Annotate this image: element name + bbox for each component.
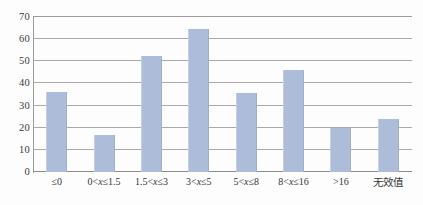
x-axis-category-label: 无效值 xyxy=(373,176,403,188)
y-axis-tick-labels: 706050403020100 xyxy=(0,0,30,205)
x-axis-category-label: 5<x≤8 xyxy=(233,176,259,188)
label-text: 0< xyxy=(88,176,99,187)
bar xyxy=(188,29,209,172)
x-axis-category-label: ≤0 xyxy=(51,176,62,188)
y-axis-tick-label: 0 xyxy=(2,167,30,177)
label-text: >16 xyxy=(333,176,349,187)
bar xyxy=(236,93,257,172)
y-axis-tick-label: 50 xyxy=(2,56,30,66)
bar xyxy=(283,70,304,172)
y-axis-tick-label: 40 xyxy=(2,78,30,88)
y-axis-tick-label: 20 xyxy=(2,123,30,133)
x-axis-category-label: 1.5<x≤3 xyxy=(135,176,168,188)
x-axis-category-label: >16 xyxy=(333,176,349,188)
label-text: ≤8 xyxy=(248,176,259,187)
bar xyxy=(94,135,115,172)
bars-layer xyxy=(33,17,412,172)
label-text: ≤0 xyxy=(51,176,62,187)
label-text: ≤5 xyxy=(201,176,212,187)
label-text: ≤3 xyxy=(157,176,168,187)
label-text: 5< xyxy=(233,176,244,187)
label-text: 无效值 xyxy=(373,176,403,188)
label-text: 8< xyxy=(278,176,289,187)
label-text: ≤16 xyxy=(293,176,309,187)
x-axis-category-label: 3<x≤5 xyxy=(186,176,212,188)
y-axis-tick-label: 10 xyxy=(2,145,30,155)
x-axis-category-label: 0<x≤1.5 xyxy=(88,176,121,188)
label-text: ≤1.5 xyxy=(103,176,121,187)
plot-area xyxy=(33,17,412,172)
x-axis-category-labels: ≤00<x≤1.51.5<x≤33<x≤55<x≤88<x≤16>16无效值 xyxy=(33,176,412,200)
label-text: 3< xyxy=(186,176,197,187)
y-axis-tick-label: 30 xyxy=(2,101,30,111)
bar xyxy=(378,119,399,172)
label-text: 1.5< xyxy=(135,176,153,187)
x-axis-category-label: 8<x≤16 xyxy=(278,176,309,188)
bar-chart: 706050403020100 ≤00<x≤1.51.5<x≤33<x≤55<x… xyxy=(0,0,423,205)
bar xyxy=(141,56,162,172)
y-axis-tick-label: 70 xyxy=(2,12,30,22)
bar xyxy=(46,92,67,172)
bar xyxy=(330,128,351,172)
y-axis-tick-label: 60 xyxy=(2,34,30,44)
